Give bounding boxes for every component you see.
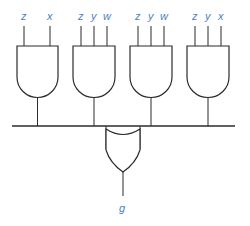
- and-gate-shape: [187, 46, 229, 97]
- and-gate-3: z y w: [130, 10, 172, 126]
- input-label-w: w: [103, 10, 112, 22]
- and-gate-4: z y x: [187, 10, 229, 126]
- and-gate-shape: [73, 46, 115, 97]
- input-label-y: y: [204, 10, 212, 22]
- input-label-z: z: [191, 10, 198, 22]
- and-gate-2: z y w: [73, 10, 115, 126]
- output-label-g: g: [119, 202, 126, 214]
- logic-circuit-diagram: z x z y w z y w z y x: [0, 0, 250, 226]
- and-gate-1: z x: [17, 10, 58, 126]
- input-label-y: y: [147, 10, 155, 22]
- or-gate-shape: [106, 129, 140, 172]
- input-label-z: z: [20, 10, 27, 22]
- and-gate-shape: [130, 46, 172, 97]
- input-label-x: x: [46, 10, 53, 22]
- input-label-z: z: [134, 10, 141, 22]
- input-label-x: x: [217, 10, 224, 22]
- and-gate-shape: [17, 46, 58, 97]
- input-label-y: y: [90, 10, 98, 22]
- input-label-z: z: [77, 10, 84, 22]
- or-gate: g: [106, 126, 140, 214]
- input-label-w: w: [160, 10, 169, 22]
